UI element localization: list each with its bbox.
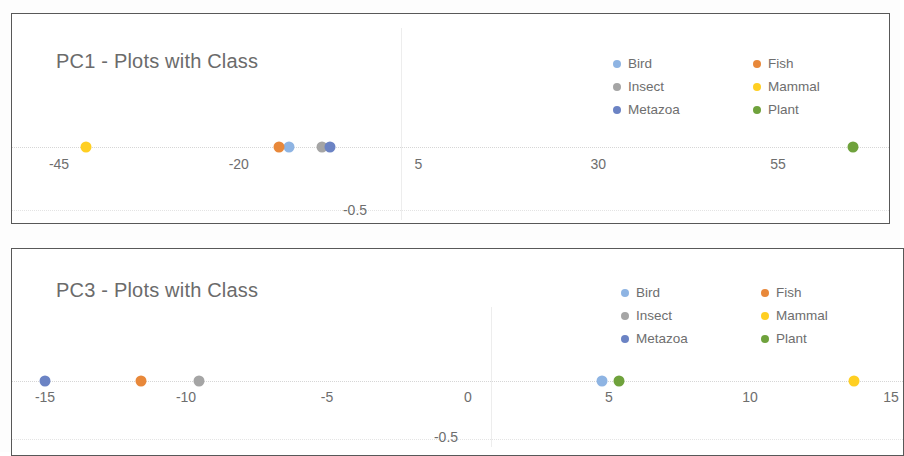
x-tick-label: 0	[464, 389, 472, 405]
data-point-metazoa[interactable]	[40, 376, 51, 387]
legend-dot-metazoa	[613, 106, 621, 114]
gridline-bottom-pc1	[12, 210, 889, 211]
chart-pc3[interactable]: PC3 - Plots with Class Bird Fish Insect …	[11, 248, 904, 456]
legend-pc3: Bird Fish Insect Mammal Metazoa	[621, 281, 881, 350]
legend-item-bird[interactable]: Bird	[613, 57, 753, 71]
legend-item-fish-2[interactable]: Fish	[761, 286, 881, 300]
legend-dot-fish	[753, 60, 761, 68]
data-point-fish[interactable]	[274, 142, 285, 153]
x-tick-label: -5	[321, 389, 333, 405]
legend-label-fish-2: Fish	[776, 286, 802, 300]
x-tick-label: 5	[415, 156, 423, 172]
legend-dot-plant	[753, 106, 761, 114]
gridline-vertical-pc3	[491, 307, 492, 447]
legend-dot-fish-2	[761, 289, 769, 297]
x-tick-label: -15	[35, 389, 55, 405]
plot-area-pc3: PC3 - Plots with Class Bird Fish Insect …	[12, 249, 903, 455]
x-tick-label: -45	[49, 156, 69, 172]
legend-item-mammal-2[interactable]: Mammal	[761, 309, 881, 323]
data-point-insect[interactable]	[193, 376, 204, 387]
chart-pc1[interactable]: PC1 - Plots with Class Bird Fish Insect …	[11, 13, 890, 224]
legend-dot-bird	[613, 60, 621, 68]
legend-item-fish[interactable]: Fish	[753, 57, 873, 71]
data-point-fish[interactable]	[135, 376, 146, 387]
x-axis-line-pc1	[12, 147, 889, 148]
legend-item-mammal[interactable]: Mammal	[753, 80, 873, 94]
x-tick-label: -20	[229, 156, 249, 172]
legend-dot-insect	[613, 83, 621, 91]
legend-item-insect-2[interactable]: Insect	[621, 309, 761, 323]
legend-label-metazoa-2: Metazoa	[636, 332, 688, 346]
legend-label-mammal-2: Mammal	[776, 309, 828, 323]
y-tick-label-pc1: -0.5	[343, 202, 367, 218]
gridline-vertical-pc1	[401, 28, 402, 220]
legend-label-plant-2: Plant	[776, 332, 807, 346]
legend-dot-mammal-2	[761, 312, 769, 320]
legend-item-bird-2[interactable]: Bird	[621, 286, 761, 300]
x-tick-label: -10	[176, 389, 196, 405]
legend-dot-plant-2	[761, 335, 769, 343]
x-tick-label: 5	[605, 389, 613, 405]
plot-area-pc1: PC1 - Plots with Class Bird Fish Insect …	[12, 14, 889, 223]
data-point-plant[interactable]	[613, 376, 624, 387]
legend-item-insect[interactable]: Insect	[613, 80, 753, 94]
y-tick-label-pc3: -0.5	[434, 429, 458, 445]
legend-dot-insect-2	[621, 312, 629, 320]
legend-label-metazoa: Metazoa	[628, 103, 680, 117]
x-tick-label: 10	[742, 389, 758, 405]
legend-label-plant: Plant	[768, 103, 799, 117]
page-title-2: PC3 - Plots with Class	[56, 279, 258, 302]
data-point-mammal[interactable]	[849, 376, 860, 387]
x-tick-label: 30	[590, 156, 606, 172]
x-tick-label: 55	[770, 156, 786, 172]
legend-dot-bird-2	[621, 289, 629, 297]
legend-item-metazoa-2[interactable]: Metazoa	[621, 332, 761, 346]
data-point-bird[interactable]	[284, 142, 295, 153]
legend-pc1: Bird Fish Insect Mammal Metazoa	[613, 52, 873, 121]
legend-label-mammal: Mammal	[768, 80, 820, 94]
legend-item-plant-2[interactable]: Plant	[761, 332, 881, 346]
x-tick-label: 15	[883, 389, 899, 405]
data-point-mammal[interactable]	[81, 142, 92, 153]
legend-label-insect-2: Insect	[636, 309, 672, 323]
legend-dot-mammal	[753, 83, 761, 91]
legend-label-insect: Insect	[628, 80, 664, 94]
legend-dot-metazoa-2	[621, 335, 629, 343]
legend-item-plant[interactable]: Plant	[753, 103, 873, 117]
legend-label-fish: Fish	[768, 57, 794, 71]
legend-label-bird-2: Bird	[636, 286, 660, 300]
data-point-plant[interactable]	[847, 142, 858, 153]
legend-item-metazoa[interactable]: Metazoa	[613, 103, 753, 117]
data-point-metazoa[interactable]	[325, 142, 336, 153]
data-point-bird[interactable]	[596, 376, 607, 387]
page-title: PC1 - Plots with Class	[56, 50, 258, 73]
legend-label-bird: Bird	[628, 57, 652, 71]
